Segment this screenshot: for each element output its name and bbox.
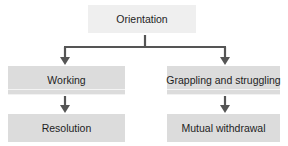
node-label: Grappling and struggling [166, 74, 280, 86]
node-grappling-and-struggling: Grappling and struggling [167, 66, 280, 95]
node-orientation: Orientation [88, 5, 196, 33]
node-working: Working [8, 66, 125, 95]
node-label: Orientation [116, 13, 167, 25]
node-label: Resolution [42, 122, 92, 134]
arrow-down-icon [220, 57, 230, 65]
node-label: Working [47, 74, 85, 86]
node-mutual-withdrawal: Mutual withdrawal [167, 114, 280, 142]
node-label: Mutual withdrawal [181, 122, 265, 134]
node-resolution: Resolution [8, 114, 125, 142]
arrow-down-icon [220, 105, 230, 113]
arrow-down-icon [60, 105, 70, 113]
arrow-down-icon [60, 57, 70, 65]
